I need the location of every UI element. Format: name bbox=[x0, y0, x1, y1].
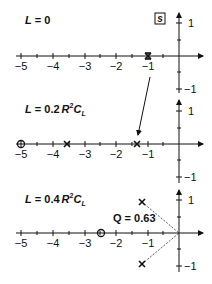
q-annotation: Q = 0.63 bbox=[113, 212, 156, 224]
svg-text:−3: −3 bbox=[79, 60, 92, 72]
s-plane-label: s bbox=[157, 13, 163, 24]
svg-text:−4: −4 bbox=[47, 60, 60, 72]
svg-text:−3: −3 bbox=[79, 148, 92, 160]
svg-text:−2: −2 bbox=[110, 237, 123, 249]
panel-2: L = 0.2R2CL −5 −4 −3 −2 −1 1 −1 bbox=[15, 100, 203, 183]
y-tick-label-pos: 1 bbox=[188, 105, 194, 117]
x-tick-labels: −5 −4 −3 −2 −1 bbox=[15, 148, 155, 160]
x-tick-labels: −5 −4 −3 −2 −1 bbox=[15, 237, 155, 249]
x-tick-labels: −5 −4 −3 −2 −1 bbox=[15, 60, 155, 72]
y-tick-label-neg: −1 bbox=[184, 260, 197, 272]
panel-1-title: L = 0 bbox=[25, 14, 50, 26]
y-tick-label-neg: −1 bbox=[184, 83, 197, 95]
svg-text:−1: −1 bbox=[142, 148, 155, 160]
svg-text:−5: −5 bbox=[15, 237, 28, 249]
svg-text:−1: −1 bbox=[142, 60, 155, 72]
pole-motion-arrow bbox=[138, 77, 150, 135]
svg-text:−5: −5 bbox=[15, 60, 28, 72]
pole-marker-upper bbox=[139, 199, 145, 205]
pole-marker-lower bbox=[139, 261, 145, 267]
svg-text:−5: −5 bbox=[15, 148, 28, 160]
svg-text:−2: −2 bbox=[110, 60, 123, 72]
panel-1: L = 0 s −5 −4 −3 −2 −1 1 −1 bbox=[15, 13, 203, 95]
svg-text:−2: −2 bbox=[110, 148, 123, 160]
panel-2-title: L = 0.2R2CL bbox=[25, 102, 86, 117]
svg-text:−3: −3 bbox=[79, 237, 92, 249]
pole-zero-diagram: L = 0 s −5 −4 −3 −2 −1 1 −1 bbox=[0, 0, 212, 284]
svg-text:−4: −4 bbox=[47, 148, 60, 160]
svg-text:−1: −1 bbox=[142, 237, 155, 249]
panel-3: L = 0.4R2CL −5 −4 −3 −2 −1 1 −1 bbox=[15, 190, 203, 272]
y-tick-label-pos: 1 bbox=[188, 17, 194, 29]
y-tick-label-neg: −1 bbox=[184, 171, 197, 183]
svg-text:−4: −4 bbox=[47, 237, 60, 249]
panel-3-title: L = 0.4R2CL bbox=[25, 192, 86, 207]
y-tick-label-pos: 1 bbox=[188, 194, 194, 206]
